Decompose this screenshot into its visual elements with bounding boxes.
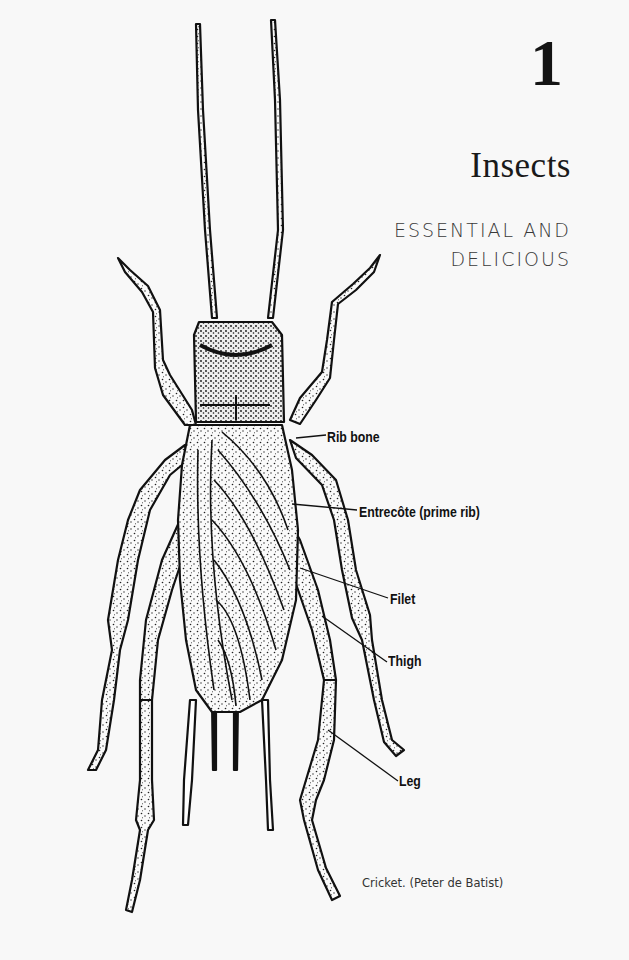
label-leg: Leg — [399, 772, 421, 789]
right-hind-leg — [300, 680, 340, 900]
book-page: 1 Insects ESSENTIAL AND DELICIOUS — [0, 0, 629, 960]
label-thigh: Thigh — [388, 652, 421, 669]
right-antenna — [268, 20, 283, 318]
cricket-illustration — [0, 0, 629, 960]
left-middle-leg — [88, 445, 188, 770]
right-cercus — [262, 700, 273, 830]
left-front-leg — [118, 258, 196, 425]
right-front-leg — [290, 255, 380, 424]
label-entrecote: Entrecôte (prime rib) — [359, 503, 480, 520]
head — [194, 322, 284, 422]
left-hind-leg — [126, 700, 154, 912]
figure-caption: Cricket. (Peter de Batist) — [362, 876, 503, 890]
left-antenna — [196, 24, 217, 318]
left-cercus — [183, 700, 196, 825]
abdomen — [178, 425, 298, 712]
label-filet: Filet — [390, 590, 415, 607]
label-rib-bone: Rib bone — [327, 428, 380, 445]
